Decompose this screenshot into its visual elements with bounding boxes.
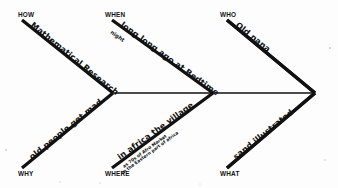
category-label-what: WHAT — [220, 170, 240, 177]
annotation-what: sand illustrated — [231, 107, 295, 162]
annotation-when: long long ago at Bedtime — [119, 20, 221, 98]
annotation-how: Mathematical Research — [29, 20, 121, 97]
category-label-why: WHY — [18, 170, 34, 177]
diagram-canvas: HOW WHEN WHO WHY WHERE WHAT Mathematical… — [0, 0, 338, 188]
annotation-why: old people get mad — [27, 96, 104, 161]
category-label-when: WHEN — [105, 11, 126, 18]
fishbone-diagram: HOW WHEN WHO WHY WHERE WHAT Mathematical… — [0, 0, 338, 188]
annotation-when-sub: night — [109, 29, 126, 44]
annotation-who: Old nana — [234, 20, 273, 54]
category-label-who: WHO — [220, 11, 236, 18]
annotation-where: in africa the village — [115, 99, 195, 161]
category-label-how: HOW — [18, 11, 35, 18]
